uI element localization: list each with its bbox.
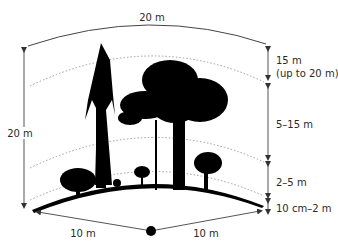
plot-center-point xyxy=(146,226,156,236)
top-width-label: 20 m xyxy=(139,12,165,23)
herb-label: 10 cm–2 m xyxy=(276,203,331,214)
subcanopy-label: 5–15 m xyxy=(276,119,313,130)
forest-layer-diagram: 20 m 20 m 15 m (up to 20 m) 5–15 m 2–5 m… xyxy=(0,0,338,247)
shrub-right-icon xyxy=(194,152,222,190)
conifer-tree-icon xyxy=(85,43,115,188)
herb-icon xyxy=(113,179,121,187)
subcanopy-boundary-arc xyxy=(30,137,264,168)
top-width-arc xyxy=(28,25,266,46)
height-label: 20 m xyxy=(7,128,33,139)
shrub-center-icon xyxy=(134,166,150,187)
right-radius-label: 10 m xyxy=(193,228,219,239)
canopy-label-note: (up to 20 m) xyxy=(276,68,338,79)
left-radius-label: 10 m xyxy=(70,228,96,239)
shrub-label: 2–5 m xyxy=(276,177,307,188)
canopy-label: 15 m xyxy=(276,55,302,66)
